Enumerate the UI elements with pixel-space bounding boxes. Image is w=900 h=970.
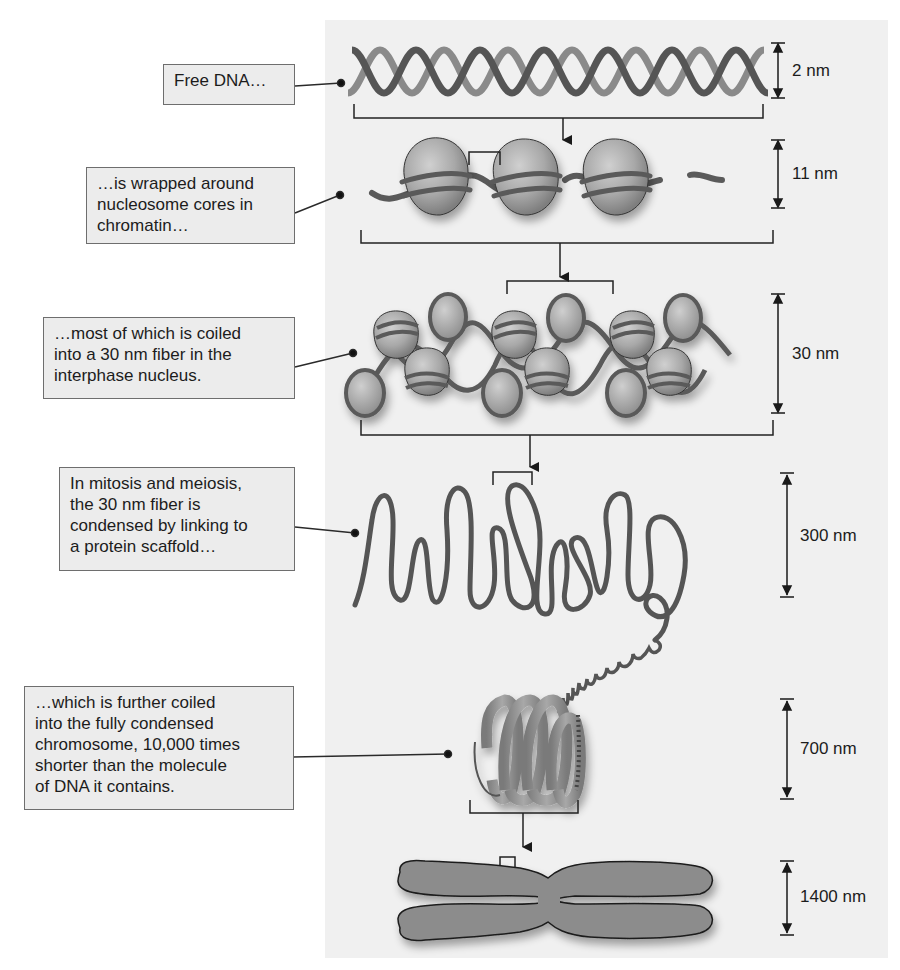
bracket-icon [361,230,773,243]
looped-chromatin-fiber [355,485,685,712]
callout-line: shorter than the molecule [35,755,283,776]
callout-line: interphase nucleus. [54,365,284,386]
callout-line: of DNA it contains. [35,776,283,797]
callout-free-dna: Free DNA… [163,64,295,105]
callout-condensed-chromosome: …which is further coiled into the fully … [24,686,294,810]
bracket-icon [354,104,763,118]
coiled-chromatin-fiber [475,700,581,803]
scale-label-11nm: 11 nm [792,164,838,184]
scale-label-700nm: 700 nm [800,739,857,759]
callout-line: condensed by linking to [70,515,284,536]
dna-double-helix [348,50,768,93]
callout-line: chromatin… [97,215,284,236]
bracket-icon [507,281,613,294]
callout-line: into a 30 nm fiber in the [54,344,284,365]
callout-line: the 30 nm fiber is [70,494,284,515]
scale-bars [771,43,794,935]
callout-line: into the fully condensed [35,713,283,734]
callout-line: Free DNA… [174,70,284,91]
chromatin-30nm-fiber [346,294,730,416]
scale-label-1400nm: 1400 nm [800,887,866,907]
bracket-icon [361,420,773,435]
scale-label-2nm: 2 nm [792,61,830,81]
metaphase-chromosome [398,860,712,940]
callout-line: chromosome, 10,000 times [35,734,283,755]
callout-scaffold: In mitosis and meiosis, the 30 nm fiber … [59,467,295,571]
callout-line: …is wrapped around [97,173,284,194]
callout-30nm-fiber: …most of which is coiled into a 30 nm fi… [43,317,295,399]
scale-label-30nm: 30 nm [792,344,839,364]
callout-line: a protein scaffold… [70,536,284,557]
nucleosome-chain [372,138,722,215]
callout-nucleosome: …is wrapped around nucleosome cores in c… [86,167,295,244]
scale-label-300nm: 300 nm [800,526,857,546]
callout-line: nucleosome cores in [97,194,284,215]
callout-line: In mitosis and meiosis, [70,473,284,494]
callout-line: …which is further coiled [35,692,283,713]
callout-line: …most of which is coiled [54,323,284,344]
